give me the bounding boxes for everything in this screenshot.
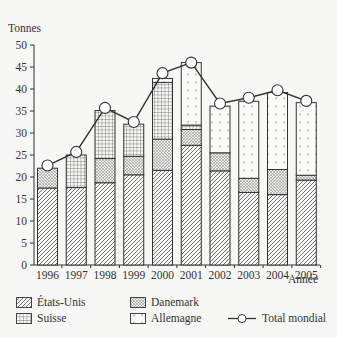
grid-swatch-icon: [16, 313, 32, 324]
bar-segment: [296, 103, 316, 176]
bar-segment: [210, 153, 230, 171]
bar-stack: [210, 106, 230, 265]
y-tick-label: 45: [16, 61, 28, 73]
bar-segment: [268, 195, 288, 265]
legend-label: Total mondial: [262, 312, 326, 324]
total-marker: [100, 102, 111, 113]
x-tick-label: 2003: [237, 269, 260, 281]
bar-segment: [268, 93, 288, 170]
legend-label: Danemark: [151, 296, 199, 308]
x-tick-label: 2004: [266, 269, 289, 281]
bar-segment: [181, 145, 201, 265]
x-tick-label: 1998: [94, 269, 117, 281]
y-axis-label: Tonnes: [8, 22, 42, 34]
x-tick-label: 2000: [151, 269, 174, 281]
bar-stack: [153, 78, 173, 265]
total-marker: [215, 98, 226, 109]
bar-segment: [239, 192, 259, 265]
hatch-swatch-icon: [16, 297, 32, 308]
legend-item-total: Total mondial: [227, 312, 326, 324]
bar-segment: [239, 178, 259, 192]
x-tick-label: 1999: [122, 269, 145, 281]
total-marker: [186, 57, 197, 68]
bar-segment: [153, 170, 173, 265]
y-tick-label: 20: [16, 171, 28, 183]
bar-segment: [210, 106, 230, 153]
legend-item-usa: États-Unis: [16, 296, 86, 308]
total-marker: [243, 92, 254, 103]
bar-stack: [239, 101, 259, 265]
y-tick-label: 50: [16, 39, 28, 51]
y-tick-label: 15: [16, 193, 28, 205]
bar-stack: [124, 124, 144, 265]
bar-segment: [95, 183, 115, 265]
x-tick-label: 1997: [65, 269, 88, 281]
legend-item-suisse: Suisse: [16, 312, 66, 324]
y-tick-label: 40: [16, 83, 28, 95]
bar-segment: [66, 155, 86, 188]
legend-item-allemagne: Allemagne: [130, 312, 201, 324]
bar-stack: [66, 155, 86, 265]
bar-segment: [210, 171, 230, 265]
total-marker: [128, 117, 139, 128]
y-tick-label: 10: [16, 215, 28, 227]
y-tick-label: 0: [21, 259, 27, 271]
bar-segment: [38, 188, 58, 265]
total-marker: [157, 68, 168, 79]
x-axis-label: Année: [288, 273, 318, 285]
bar-segment: [181, 125, 201, 129]
dots-swatch-icon: [130, 297, 146, 308]
bar-stack: [268, 93, 288, 265]
line-circle-marker-icon: [227, 313, 257, 324]
bar-segment: [268, 170, 288, 195]
total-marker: [71, 146, 82, 157]
total-marker: [301, 95, 312, 106]
bar-segment: [239, 101, 259, 178]
x-tick-label: 2002: [209, 269, 232, 281]
bar-segment: [181, 129, 201, 145]
bar-segment: [296, 180, 316, 265]
bar-segment: [124, 175, 144, 265]
bar-segment: [153, 82, 173, 139]
bar-stack: [95, 111, 115, 265]
bar-stack: [38, 168, 58, 265]
legend-label: Allemagne: [151, 312, 201, 324]
bar-segment: [124, 124, 144, 156]
x-tick-label: 1996: [36, 269, 59, 281]
bar-segment: [95, 159, 115, 183]
bar-stack: [296, 103, 316, 265]
legend-item-danemark: Danemark: [130, 296, 199, 308]
bar-stack: [181, 63, 201, 265]
stacked-bar-chart: Tonnes 051015202530354045501996199719981…: [0, 0, 337, 338]
bar-segment: [124, 156, 144, 174]
y-tick-label: 35: [16, 105, 28, 117]
total-marker: [42, 160, 53, 171]
bar-segment: [66, 188, 86, 265]
legend: États-Unis Danemark Suisse Allemagne Tot…: [0, 294, 337, 334]
total-marker: [272, 85, 283, 96]
y-tick-label: 30: [16, 127, 28, 139]
legend-label: États-Unis: [37, 296, 86, 308]
legend-label: Suisse: [37, 312, 66, 324]
y-tick-label: 5: [21, 237, 27, 249]
bar-segment: [153, 139, 173, 170]
x-tick-label: 2001: [180, 269, 203, 281]
bar-segment: [296, 175, 316, 180]
y-tick-label: 25: [16, 149, 28, 161]
dashes-swatch-icon: [130, 313, 146, 324]
